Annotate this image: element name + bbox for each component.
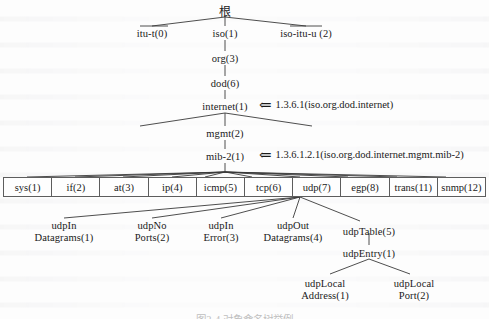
oid-annotation-internet: ⇐ 1.3.6.1(iso.org.dod.internet)	[259, 99, 393, 111]
udpinerror-line2: Error(3)	[203, 232, 238, 244]
mib-cell-snmp: snmp(12)	[438, 178, 485, 196]
edge-udp-indatagrams	[64, 197, 300, 218]
udpoutdatagrams-line2: Datagrams(4)	[264, 232, 323, 244]
tree-node-udpentry: udpEntry(1)	[343, 248, 395, 260]
tree-node-itu-t: itu-t(0)	[137, 28, 168, 40]
tree-node-dod: dod(6)	[211, 78, 240, 90]
edge-udp-noports	[152, 197, 300, 218]
udpnoports-line1: udpNo	[137, 220, 166, 231]
mib-cell-udp: udp(7)	[293, 178, 341, 196]
tree-node-internet: internet(1)	[202, 101, 247, 113]
mib-cell-sys: sys(1)	[4, 178, 52, 196]
udplocalport-line2: Port(2)	[394, 290, 434, 302]
mib-cell-trans: trans(11)	[390, 178, 438, 196]
edge-udp-udptable	[300, 197, 360, 221]
mib-cell-if: if(2)	[52, 178, 100, 196]
tree-node-root: 根	[219, 6, 231, 19]
tree-node-mib-2: mib-2(1)	[206, 151, 244, 163]
udpoutdatagrams-line1: udpOut	[277, 220, 309, 231]
tree-node-udpnoports: udpNo Ports(2)	[135, 220, 170, 244]
mib-2-subtree-table: sys(1) if(2) at(3) ip(4) icmp(5) tcp(6) …	[3, 177, 486, 197]
tree-node-udpoutdatagrams: udpOut Datagrams(4)	[264, 220, 323, 244]
mib-object-identifier-tree-figure: 根 itu-t(0) iso(1) iso-itu-u (2) org(3) d…	[0, 0, 489, 319]
edge-udpentry-localaddress	[330, 259, 369, 274]
udpnoports-line2: Ports(2)	[135, 232, 170, 244]
edge-udpentry-localport	[369, 259, 410, 274]
udpindatagrams-line1: udpIn	[52, 220, 77, 231]
tree-node-mgmt: mgmt(2)	[206, 128, 243, 140]
left-arrow-icon: ⇐	[259, 149, 272, 161]
mib-cell-at: at(3)	[100, 178, 148, 196]
edge-root-itut	[152, 17, 225, 26]
mib-cell-icmp: icmp(5)	[197, 178, 245, 196]
mib-cell-tcp: tcp(6)	[245, 178, 293, 196]
oid-annotation-mib2: ⇐ 1.3.6.1.2.1(iso.org.dod.internet.mgmt.…	[259, 149, 464, 161]
mib-cell-egp: egp(8)	[341, 178, 389, 196]
udpindatagrams-line2: Datagrams(1)	[35, 232, 94, 244]
udplocaladdress-line1: udpLocal	[305, 278, 345, 289]
udpinerror-line1: udpIn	[208, 220, 233, 231]
udplocalport-line1: udpLocal	[394, 278, 434, 289]
tree-node-udplocalport: udpLocal Port(2)	[394, 278, 434, 302]
edge-internet-left	[140, 113, 225, 126]
left-arrow-icon: ⇐	[259, 99, 272, 111]
edge-root-isoitu	[225, 17, 306, 26]
udplocaladdress-line2: Address(1)	[301, 290, 349, 302]
tree-node-iso-itu-u: iso-itu-u (2)	[280, 28, 332, 40]
mib-cell-ip: ip(4)	[149, 178, 197, 196]
tree-node-iso: iso(1)	[212, 28, 237, 40]
oid-annotation-internet-text: 1.3.6.1(iso.org.dod.internet)	[276, 99, 394, 111]
tree-node-udpinerror: udpIn Error(3)	[203, 220, 238, 244]
tree-node-udpindatagrams: udpIn Datagrams(1)	[35, 220, 94, 244]
edge-udp-outdatagrams	[293, 197, 300, 218]
tree-node-udplocaladdress: udpLocal Address(1)	[301, 278, 349, 302]
edge-internet-right	[225, 113, 312, 126]
oid-annotation-mib2-text: 1.3.6.1.2.1(iso.org.dod.internet.mgmt.mi…	[276, 149, 464, 161]
figure-caption: 图2-4 对象命名树举例	[0, 311, 489, 319]
tree-node-udptable: udpTable(5)	[343, 226, 395, 238]
tree-node-org: org(3)	[212, 53, 239, 65]
